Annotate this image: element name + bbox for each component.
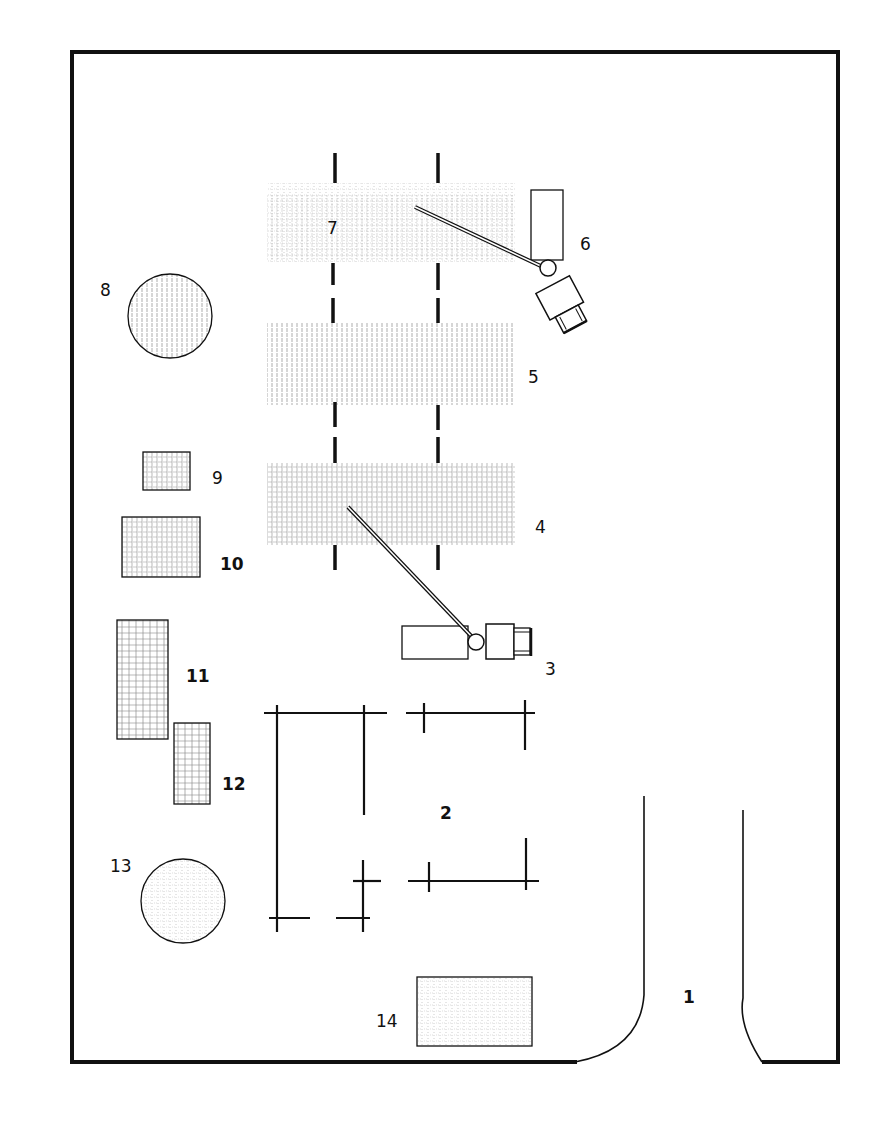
block-11: 11 [117, 620, 210, 739]
label-6: 6 [580, 234, 591, 254]
tank-8: 8 [100, 274, 212, 358]
label-4: 4 [535, 517, 546, 537]
label-14: 14 [376, 1011, 398, 1031]
label-3: 3 [545, 659, 556, 679]
label-13: 13 [110, 856, 132, 876]
label-7: 7 [327, 218, 338, 238]
label-9: 9 [212, 468, 223, 488]
label-12: 12 [222, 774, 246, 794]
block-9: 9 [143, 452, 223, 490]
label-5: 5 [528, 367, 539, 387]
block-10: 10 [122, 517, 244, 577]
label-2: 2 [440, 803, 452, 823]
block-14: 14 [376, 977, 532, 1046]
label-11: 11 [186, 666, 210, 686]
block-12: 12 [174, 723, 246, 804]
label-8: 8 [100, 280, 111, 300]
storage-area-7: 7 [267, 183, 515, 263]
storage-area-4: 4 [267, 463, 546, 545]
label-10: 10 [220, 554, 244, 574]
entrance-road: 1 [575, 796, 762, 1062]
tank-13: 13 [110, 856, 225, 943]
label-1: 1 [683, 987, 695, 1007]
building-2 [264, 700, 539, 932]
site-plan: 1 7 5 4 [0, 0, 875, 1127]
storage-area-5: 5 [267, 323, 539, 405]
